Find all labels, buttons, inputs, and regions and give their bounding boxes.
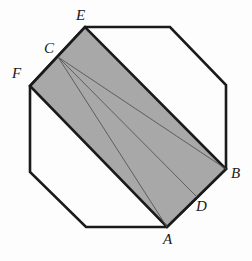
vertex-label-F: F bbox=[12, 66, 21, 81]
vertex-label-A: A bbox=[163, 232, 172, 247]
vertex-label-B: B bbox=[231, 166, 240, 181]
octagon-diagram-svg bbox=[0, 0, 252, 261]
vertex-label-D: D bbox=[196, 199, 207, 214]
geometry-figure: E C F B D A bbox=[0, 0, 252, 261]
vertex-label-C: C bbox=[44, 41, 54, 56]
vertex-label-E: E bbox=[76, 8, 85, 23]
